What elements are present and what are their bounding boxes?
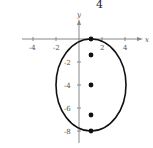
y-axis-label: y: [76, 11, 82, 19]
x-axis-label: x: [145, 36, 149, 44]
x-tick-label: -2: [53, 44, 60, 52]
focus-point: [89, 53, 94, 58]
x-tick-label: 4: [123, 44, 128, 52]
x-axis-arrow-icon: [137, 37, 143, 41]
y-axis-arrow-icon: [77, 19, 81, 25]
y-tick-label: -2: [64, 59, 71, 67]
points: [89, 37, 94, 134]
y-tick-label: -8: [64, 128, 71, 136]
vertex-point: [89, 37, 94, 42]
x-tick-label: -4: [29, 44, 36, 52]
vertex-point: [89, 129, 94, 134]
x-tick-label: 2: [100, 44, 104, 52]
focus-point: [89, 113, 94, 118]
y-tick-label: -6: [64, 105, 71, 113]
center-point: [89, 83, 94, 88]
ellipse-plot: x y -4 -2 2 4 -2 -4 -6 -8: [0, 0, 153, 148]
y-tick-label: -4: [64, 82, 71, 90]
